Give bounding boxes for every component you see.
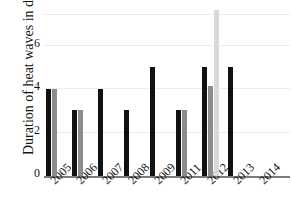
bar-2012-series-2 [208, 86, 213, 176]
bar-group-2006 [72, 10, 83, 176]
bar-2005-series-2 [52, 89, 57, 176]
bar-2011-series-2 [182, 110, 187, 176]
bar-2012-series-1 [202, 67, 207, 176]
bar-group-2013 [228, 10, 233, 176]
x-axis-tick-labels: 2005 2006 2007 2008 2009 2011 2012 2013 … [0, 178, 292, 214]
chart-title [58, 0, 238, 3]
bar-2007-series-1 [98, 89, 103, 176]
bar-2006-series-1 [72, 110, 77, 176]
y-tick-label-4: 4 [24, 80, 40, 92]
bars-layer [44, 10, 290, 176]
bar-2006-series-2 [78, 110, 83, 176]
bar-group-2011 [176, 10, 187, 176]
bar-2011-series-1 [176, 110, 181, 176]
bar-2005-series-1 [46, 89, 51, 176]
bar-group-2005 [46, 10, 57, 176]
bar-2009-series-1 [150, 67, 155, 176]
bar-chart: Duration of heat waves in days 6 4 2 0 2… [0, 0, 292, 214]
bar-group-2008 [124, 10, 129, 176]
bar-group-2012 [202, 10, 219, 176]
bar-2008-series-1 [124, 110, 129, 176]
bar-2013-series-1 [228, 67, 233, 176]
y-tick-label-2: 2 [24, 124, 40, 136]
bar-group-2009 [150, 10, 155, 176]
bar-group-2007 [98, 10, 103, 176]
y-tick-label-6: 6 [24, 37, 40, 49]
bar-2012-series-3 [214, 10, 219, 176]
